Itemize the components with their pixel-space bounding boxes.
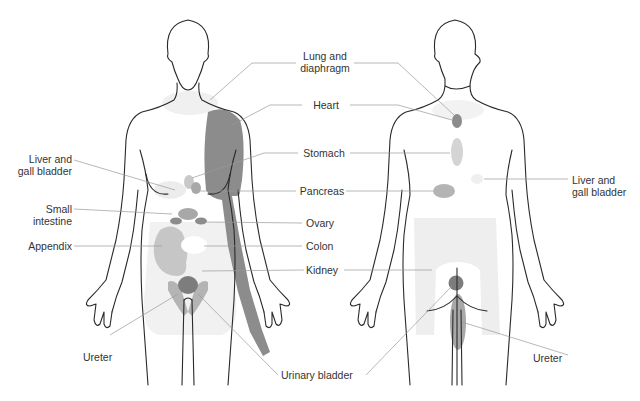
label-front-ureter: Ureter bbox=[83, 351, 112, 363]
label-small-intestine: Small intestine bbox=[0, 203, 72, 227]
label-colon: Colon bbox=[306, 240, 333, 252]
label-kidney: Kidney bbox=[306, 264, 338, 276]
front-liver-region bbox=[154, 181, 186, 199]
back-body-outline bbox=[350, 20, 563, 385]
back-liver-region bbox=[471, 174, 483, 184]
front-organ-regions bbox=[144, 91, 270, 356]
referred-pain-diagram: Lung and diaphragm Heart Stomach Pancrea… bbox=[0, 0, 640, 401]
label-urinary-bladder: Urinary bladder bbox=[281, 369, 353, 381]
label-front-liver-gallbladder: Liver and gall bladder bbox=[0, 153, 72, 177]
label-ovary: Ovary bbox=[306, 217, 334, 229]
label-appendix: Appendix bbox=[0, 240, 72, 252]
label-heart: Heart bbox=[303, 99, 349, 111]
label-back-liver-line2: gall bladder bbox=[572, 186, 626, 198]
back-pancreas-region bbox=[433, 184, 455, 198]
label-back-liver-gallbladder: Liver and gall bladder bbox=[572, 174, 626, 198]
back-heart-region bbox=[452, 114, 462, 128]
label-back-liver-line1: Liver and bbox=[572, 174, 626, 186]
back-urinary-bladder-region bbox=[449, 276, 464, 291]
front-figure bbox=[86, 20, 289, 385]
label-back-ureter: Ureter bbox=[533, 352, 562, 364]
label-pancreas: Pancreas bbox=[297, 185, 347, 197]
front-urinary-bladder-region bbox=[178, 276, 198, 294]
front-colon-region bbox=[181, 236, 207, 254]
label-stomach: Stomach bbox=[299, 147, 349, 159]
front-ovary-right-region bbox=[195, 218, 207, 225]
label-front-liver-line2: gall bladder bbox=[0, 165, 72, 177]
label-small-intestine-line1: Small bbox=[0, 203, 72, 215]
label-lung-line1: Lung and bbox=[297, 50, 353, 62]
label-small-intestine-line2: intestine bbox=[0, 215, 72, 227]
label-front-liver-line1: Liver and bbox=[0, 153, 72, 165]
back-stomach-region bbox=[451, 138, 463, 166]
front-ovary-left-region bbox=[170, 218, 182, 225]
front-small-intestine-region bbox=[178, 208, 198, 220]
front-pancreas-region bbox=[191, 182, 201, 194]
label-lung-diaphragm: Lung and diaphragm bbox=[297, 50, 353, 74]
back-figure bbox=[350, 20, 563, 385]
label-lung-line2: diaphragm bbox=[297, 62, 353, 74]
